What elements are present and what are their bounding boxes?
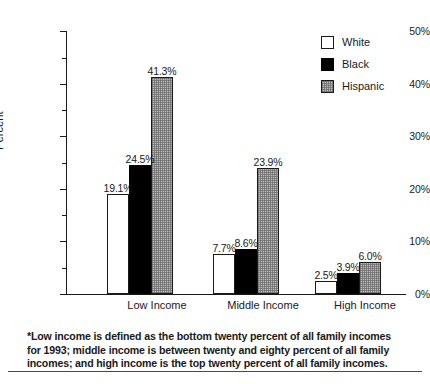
footnote-line-3: incomes; and high income is the top twen… [27,357,417,371]
bar-low-income-hispanic [151,77,173,294]
bar-label-low-income-black: 24.5% [116,154,164,165]
bar-middle-income-white [213,254,235,294]
bar-label-middle-income-black: 8.6% [222,238,270,249]
legend-label-hispanic: Hispanic [342,79,384,93]
legend-label-white: White [342,35,370,49]
x-axis-label-high-income: High Income [307,299,423,312]
bar-label-middle-income-hispanic: 23.9% [244,157,292,168]
y-axis-title: Percent [0,111,5,150]
bar-label-low-income-white: 19.1% [94,183,142,194]
bar-high-income-white [315,281,337,294]
chart-footnote: *Low income is defined as the bottom twe… [27,330,417,371]
bar-label-high-income-hispanic: 6.0% [346,251,394,262]
gray-stipple-square-icon [321,80,334,93]
bottom-divider [8,371,422,372]
white-square-icon [321,36,334,49]
bar-label-high-income-black: 3.9% [324,262,372,273]
chart-figure: 0% 10% 20% 30% 40% 50% Percent 19.1% 24.… [0,0,430,384]
bar-middle-income-hispanic [257,168,279,294]
bar-middle-income-black [235,249,257,294]
footnote-line-1: *Low income is defined as the bottom twe… [27,330,417,344]
footnote-line-2: for 1993; middle income is between twent… [27,344,417,358]
bar-low-income-white [107,194,129,294]
x-axis-label-low-income: Low Income [99,299,215,312]
black-square-icon [321,58,334,71]
x-axis-line [66,294,406,295]
y-tick-major-0 [60,294,66,295]
bar-label-low-income-hispanic: 41.3% [138,66,186,77]
x-axis-label-middle-income: Middle Income [205,299,321,312]
legend-label-black: Black [342,57,369,71]
